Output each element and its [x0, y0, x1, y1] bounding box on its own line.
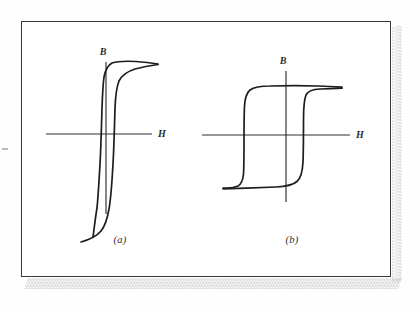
plate-shadow-bottom [24, 278, 402, 289]
loop-b-descending-branch [223, 88, 342, 189]
loop-a-descending-branch [81, 65, 158, 243]
plate-shadow-right [392, 25, 402, 282]
figure-panel-b: B H (b) [200, 22, 384, 278]
margin-tick-mark [2, 148, 8, 150]
loop-a-ascending-branch [93, 61, 158, 237]
axis-label-h-b: H [355, 129, 365, 140]
figure-frame: B H (a) B H [21, 21, 391, 277]
axis-label-b-a: B [99, 46, 107, 57]
loop-b-ascending-branch [223, 86, 342, 189]
axis-label-b-b: B [279, 55, 287, 66]
caption-b: (b) [200, 234, 384, 245]
caption-a: (a) [30, 234, 210, 245]
figure-panel-a: B H (a) [30, 22, 210, 278]
scanned-page-background: B H (a) B H [0, 0, 420, 311]
axis-label-h-a: H [157, 128, 167, 139]
